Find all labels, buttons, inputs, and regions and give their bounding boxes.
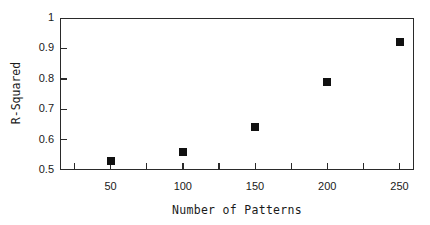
data-point-square-marker (396, 38, 404, 46)
x-tick-mark (255, 163, 256, 170)
x-tick-label: 150 (235, 180, 275, 192)
x-tick-mark (291, 163, 292, 170)
x-tick-mark (327, 163, 328, 170)
scatter-chart: 0.50.60.70.80.91 50100150200250 Number o… (0, 0, 430, 225)
x-tick-mark (218, 163, 219, 170)
x-tick-mark (182, 163, 183, 170)
x-tick-mark (363, 163, 364, 170)
y-tick-mark (60, 109, 67, 110)
x-tick-mark (74, 163, 75, 170)
x-tick-mark (399, 163, 400, 170)
x-tick-label: 200 (307, 180, 347, 192)
y-tick-label: 1 (14, 11, 54, 23)
y-tick-label: 0.9 (14, 41, 54, 53)
y-tick-label: 0.5 (14, 163, 54, 175)
data-point-square-marker (323, 78, 331, 86)
x-tick-label: 100 (163, 180, 203, 192)
y-tick-label: 0.6 (14, 133, 54, 145)
x-tick-label: 250 (380, 180, 420, 192)
x-tick-mark (146, 163, 147, 170)
y-tick-mark (60, 78, 67, 79)
y-tick-mark (60, 48, 67, 49)
plot-area (60, 18, 414, 170)
data-point-square-marker (107, 157, 115, 165)
y-axis-title: R-Squared (9, 53, 23, 133)
y-tick-mark (60, 139, 67, 140)
data-point-square-marker (179, 148, 187, 156)
x-tick-label: 50 (91, 180, 131, 192)
data-point-square-marker (251, 123, 259, 131)
x-axis-title: Number of Patterns (60, 203, 414, 217)
